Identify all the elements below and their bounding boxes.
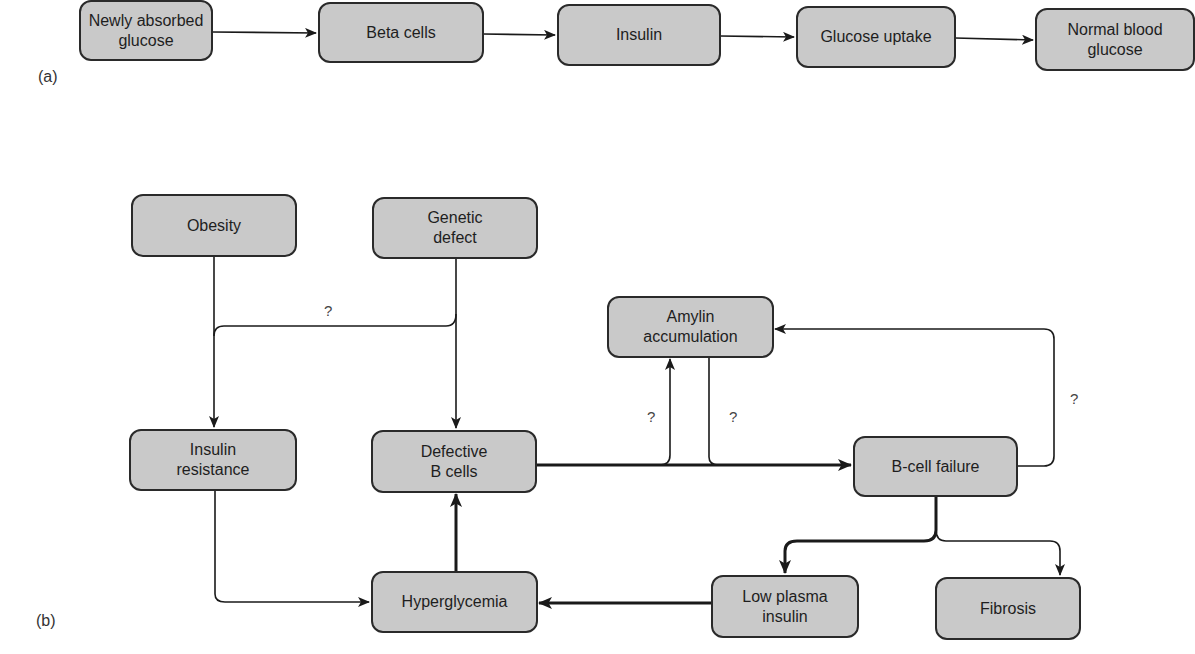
node-low-plasma-insulin: Low plasma insulin <box>711 575 859 638</box>
node-hyperglycemia: Hyperglycemia <box>371 571 538 633</box>
edge-amylin-bfailure <box>709 357 719 465</box>
node-defective-b-cells: Defective B cells <box>371 430 537 493</box>
edge-a-4 <box>955 38 1033 40</box>
edge-a-1 <box>212 32 316 33</box>
node-normal-blood-glucose: Normal blood glucose <box>1035 8 1195 71</box>
node-insulin: Insulin <box>557 4 721 66</box>
node-b-cell-failure: B-cell failure <box>853 436 1018 497</box>
question-mark-bfailure-amylin: ? <box>1070 390 1078 407</box>
edge-a-2 <box>483 34 555 35</box>
question-mark-amylin-bfailure: ? <box>729 408 737 425</box>
question-mark-defective-amylin: ? <box>647 408 655 425</box>
edge-a-3 <box>720 36 794 37</box>
node-glucose-uptake: Glucose uptake <box>796 6 956 68</box>
edge-insulinres-hyper <box>215 490 369 602</box>
node-amylin-accumulation: Amylin accumulation <box>607 296 774 358</box>
question-mark-genetic-insulin: ? <box>324 302 332 319</box>
edge-genetic-insulin-resistance <box>214 314 456 336</box>
node-fibrosis: Fibrosis <box>935 577 1081 640</box>
node-obesity: Obesity <box>131 194 297 257</box>
panel-b-label: (b) <box>36 612 56 630</box>
edge-defective-amylin <box>660 359 670 465</box>
node-beta-cells: Beta cells <box>318 2 484 63</box>
node-genetic-defect: Genetic defect <box>372 197 538 259</box>
node-insulin-resistance: Insulin resistance <box>129 429 297 491</box>
node-newly-absorbed-glucose: Newly absorbed glucose <box>79 0 213 61</box>
edge-bfailure-lowplasma <box>785 496 936 573</box>
edge-bfailure-fibrosis <box>936 530 1060 575</box>
panel-a-label: (a) <box>38 68 58 86</box>
